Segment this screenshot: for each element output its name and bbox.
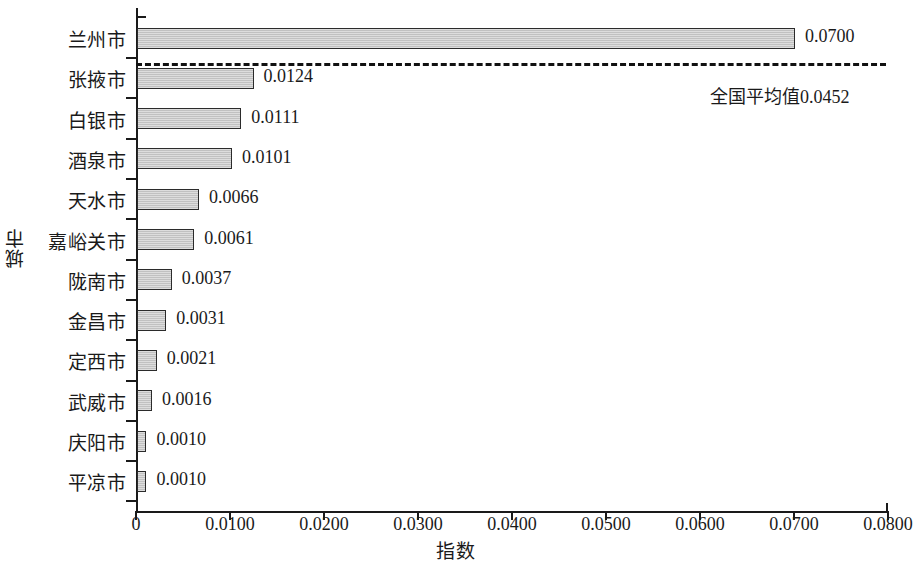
bar bbox=[137, 390, 152, 411]
category-label: 平凉市 bbox=[0, 468, 126, 495]
x-axis-tick-label: 0.0100 bbox=[185, 514, 275, 535]
bar bbox=[137, 108, 241, 129]
y-axis-top-cap bbox=[136, 16, 146, 18]
x-axis-tick-label: 0.0500 bbox=[561, 514, 651, 535]
bar-value-label: 0.0021 bbox=[167, 348, 217, 369]
bar bbox=[137, 350, 157, 371]
category-label: 定西市 bbox=[0, 347, 126, 374]
category-label: 白银市 bbox=[0, 106, 126, 133]
y-axis-tick bbox=[126, 339, 136, 341]
y-axis-tick bbox=[126, 97, 136, 99]
category-label: 陇南市 bbox=[0, 267, 126, 294]
bar-value-label: 0.0031 bbox=[176, 308, 226, 329]
x-axis-tick-label: 0.0200 bbox=[279, 514, 369, 535]
bar-value-label: 0.0061 bbox=[204, 228, 254, 249]
y-axis-tick bbox=[126, 500, 136, 502]
bar-value-label: 0.0124 bbox=[264, 66, 314, 87]
bar bbox=[137, 68, 254, 89]
bar bbox=[137, 310, 166, 331]
national-average-line bbox=[136, 63, 886, 66]
y-axis-tick bbox=[126, 299, 136, 301]
y-axis-tick bbox=[126, 380, 136, 382]
x-axis-tick-label: 0.0700 bbox=[749, 514, 839, 535]
x-axis-tick-label: 0.0600 bbox=[655, 514, 745, 535]
x-axis-tick-label: 0.0300 bbox=[373, 514, 463, 535]
bar-value-label: 0.0010 bbox=[156, 429, 206, 450]
bar bbox=[137, 28, 795, 49]
bar bbox=[137, 229, 194, 250]
bar-value-label: 0.0016 bbox=[162, 389, 212, 410]
bar-value-label: 0.0700 bbox=[805, 26, 855, 47]
category-label: 兰州市 bbox=[0, 25, 126, 52]
bar bbox=[137, 269, 172, 290]
y-axis-tick bbox=[126, 138, 136, 140]
y-axis-tick bbox=[126, 218, 136, 220]
bar-value-label: 0.0101 bbox=[242, 147, 292, 168]
x-axis-tick-label: 0 bbox=[91, 514, 181, 535]
category-label: 嘉峪关市 bbox=[0, 227, 126, 254]
bar-value-label: 0.0010 bbox=[156, 469, 206, 490]
y-axis-tick bbox=[126, 460, 136, 462]
category-label: 酒泉市 bbox=[0, 146, 126, 173]
x-axis-title: 指数 bbox=[0, 536, 912, 563]
bar bbox=[137, 431, 146, 452]
category-label: 武威市 bbox=[0, 388, 126, 415]
category-label: 天水市 bbox=[0, 186, 126, 213]
y-axis-tick bbox=[126, 259, 136, 261]
bar bbox=[137, 471, 146, 492]
national-average-label: 全国平均值0.0452 bbox=[710, 82, 850, 108]
x-axis-tick-label: 0.0800 bbox=[843, 514, 917, 535]
y-axis-tick bbox=[126, 420, 136, 422]
bar bbox=[137, 148, 232, 169]
x-axis-tick-label: 0.0400 bbox=[467, 514, 557, 535]
category-label: 金昌市 bbox=[0, 307, 126, 334]
y-axis-tick bbox=[126, 57, 136, 59]
bar-value-label: 0.0037 bbox=[182, 268, 232, 289]
category-label: 张掖市 bbox=[0, 65, 126, 92]
bar-value-label: 0.0066 bbox=[209, 187, 259, 208]
category-label: 庆阳市 bbox=[0, 428, 126, 455]
y-axis-tick bbox=[126, 178, 136, 180]
bar-value-label: 0.0111 bbox=[251, 107, 299, 128]
bar bbox=[137, 189, 199, 210]
plot-area: 0.07000.01240.01110.01010.00660.00610.00… bbox=[136, 8, 888, 513]
